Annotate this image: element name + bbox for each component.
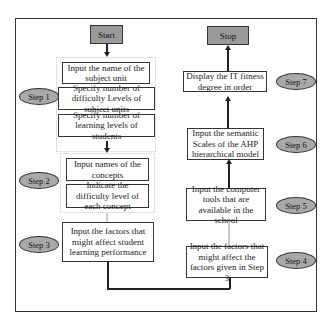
step2-box-concept-difficulty: Indicate the difficulty level of each co… <box>66 184 149 208</box>
step7-box-display-fitness: Display the IT fitness degree in order <box>183 71 267 92</box>
arrow-up-icon <box>226 159 232 164</box>
connector-line <box>106 213 108 222</box>
step3-box-student-factors: Input the factors that might affect stud… <box>62 222 154 262</box>
step1-box-difficulty-levels: Specify number of difficulty Levels of s… <box>58 87 155 110</box>
step5-box-computer-tools: Input the computer tools that are availa… <box>186 188 266 221</box>
step1-oval: Step 1 <box>19 88 59 105</box>
connector-line <box>227 50 229 71</box>
step4-oval: Step 4 <box>276 252 316 269</box>
step5-oval: Step 5 <box>276 197 316 214</box>
step6-box-semantic-scales: Input the semantic Scales of the AHP hie… <box>187 128 264 160</box>
step4-box-secondary-factors: Input the factors that might affect the … <box>186 246 268 278</box>
start-terminal: Start <box>90 25 123 44</box>
stop-terminal: Stop <box>207 26 249 45</box>
step2-oval: Step 2 <box>19 172 59 189</box>
step6-oval: Step 6 <box>276 136 316 153</box>
step3-oval: Step 3 <box>19 236 59 253</box>
connector-line <box>107 288 230 290</box>
step1-box-learning-levels: Specify number of learning levels of stu… <box>58 114 155 137</box>
step2-box-concept-names: Input names of the concepts <box>66 158 149 181</box>
arrow-up-icon <box>225 45 231 50</box>
arrow-up-icon <box>225 96 231 101</box>
connector-line <box>227 101 229 129</box>
step7-oval: Step 7 <box>276 73 316 90</box>
step1-box-subject-name: Input the name of the subject unit <box>62 62 150 84</box>
connector-line <box>107 262 109 289</box>
